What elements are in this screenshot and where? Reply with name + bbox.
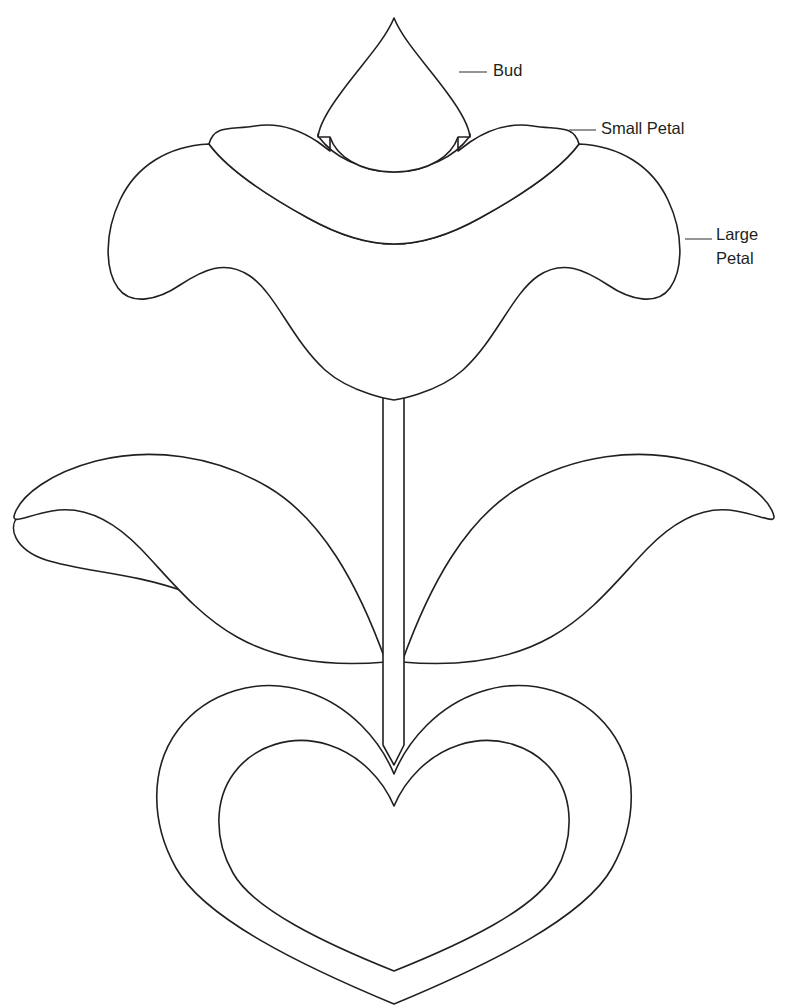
template-canvas: Bud Small Petal Large Petal	[0, 0, 787, 1008]
bud-label: Bud	[493, 61, 522, 79]
stem	[383, 392, 404, 765]
flower-template-diagram: Bud Small Petal Large Petal	[0, 0, 787, 1008]
bud	[318, 18, 470, 172]
large-petal-label-line2: Petal	[716, 249, 754, 267]
leaf-right	[402, 454, 774, 663]
large-petal-label-line1: Large	[716, 225, 758, 243]
small-petal-label: Small Petal	[601, 119, 684, 137]
